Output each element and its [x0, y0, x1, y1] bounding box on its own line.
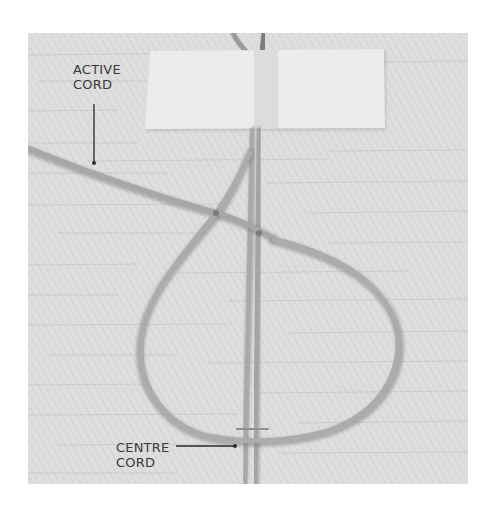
masking-tape	[145, 49, 386, 131]
centre-cord-label: CENTRE CORD	[116, 440, 169, 470]
centre-cord-callout-dot	[233, 444, 237, 448]
active-cord-callout-dot	[92, 161, 96, 165]
active-cord-label: ACTIVE CORD	[73, 62, 121, 92]
centre-cord-label-line2: CORD	[116, 455, 169, 470]
active-cord-label-line2: CORD	[73, 77, 121, 92]
photo-illustration	[28, 33, 468, 484]
active-cord-label-line1: ACTIVE	[73, 62, 121, 77]
centre-cord-label-line1: CENTRE	[116, 440, 169, 455]
macrame-photo	[28, 33, 468, 484]
